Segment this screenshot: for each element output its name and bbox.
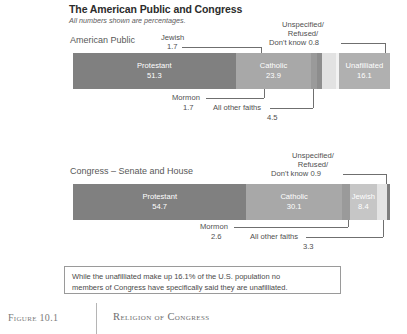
bar-segment-congress-unspecified-refused-don-t-know[interactable]	[387, 184, 390, 220]
leader-line-other-faiths-congress-v	[383, 220, 384, 237]
annotation-unspecified-line1-public: Unspecified/	[248, 20, 358, 29]
annotation-jewish-label-public: Jewish	[161, 33, 184, 42]
annotation-other-faiths-label-congress: All other faiths	[250, 232, 298, 241]
series-label-american-public: American Public	[70, 35, 135, 45]
annotation-unspecified-line1-congress: Unspecified/	[258, 151, 368, 160]
bar-segment-value: 16.1	[357, 71, 372, 81]
leader-line-unspecified-public-h	[341, 43, 385, 44]
annotation-mormon-label-congress: Mormon	[200, 222, 228, 231]
leader-line-unspecified-congress-h	[343, 174, 386, 175]
annotation-unspecified-line2-public: Refused/	[248, 29, 358, 38]
callout-line-2: members of Congress have specifically sa…	[72, 282, 334, 293]
leader-line-other-faiths-public-h	[270, 108, 313, 109]
annotation-mormon-value-congress: 2.6	[211, 232, 222, 241]
figure-number: Figure 10.1	[8, 312, 58, 323]
figure-caption-divider	[96, 303, 97, 334]
chart-subtitle: All numbers shown are percentages.	[69, 16, 186, 25]
annotation-other-faiths-label-public: All other faiths	[213, 103, 261, 112]
annotation-unspecified-line3-congress: Don't know 0.9	[271, 169, 321, 178]
bar-segment-value: 54.7	[152, 202, 167, 212]
bar-segment-congress-mormon[interactable]	[342, 184, 350, 220]
annotation-unspecified-line3-public: Don't know 0.8	[269, 38, 319, 47]
annotation-unspecified-line2-congress: Refused/	[258, 160, 368, 169]
bar-segment-value: 51.3	[147, 71, 162, 81]
figure-page: The American Public and Congress All num…	[0, 0, 407, 334]
bar-segment-congress-protestant[interactable]: Protestant54.7	[73, 184, 246, 220]
leader-line-jewish-public-h	[182, 47, 261, 48]
leader-line-other-faiths-public-v	[313, 89, 314, 108]
bar-segment-value: 23.9	[266, 71, 281, 81]
bar-segment-label: Jewish	[352, 192, 375, 202]
leader-line-mormon-congress-v	[348, 220, 349, 227]
figure-caption: Religion of Congress	[113, 311, 209, 322]
bar-segment-label: Protestant	[142, 192, 177, 202]
leader-line-other-faiths-congress-h	[306, 237, 383, 238]
series-label-congress: Congress – Senate and House	[70, 166, 193, 176]
bar-segment-label: Protestant	[137, 61, 172, 71]
bar-segment-label: Catholic	[280, 192, 307, 202]
bar-segment-congress-catholic[interactable]: Catholic30.1	[246, 184, 341, 220]
bar-segment-value: 8.4	[358, 202, 369, 212]
stacked-bar-american-public: Protestant51.3Catholic23.9Unafilliated16…	[73, 53, 390, 89]
annotation-other-faiths-value-public: 4.5	[267, 113, 278, 122]
annotation-mormon-value-public: 1.7	[183, 103, 194, 112]
bar-segment-public-all-other-faiths[interactable]	[322, 53, 336, 89]
bar-segment-label: Catholic	[260, 61, 287, 71]
chart-title: The American Public and Congress	[69, 3, 242, 15]
bar-segment-value: 30.1	[287, 202, 302, 212]
leader-line-mormon-public-h	[206, 98, 264, 99]
leader-line-mormon-congress-h	[234, 227, 348, 228]
bar-segment-public-unafilliated[interactable]: Unafilliated16.1	[339, 53, 390, 89]
annotation-jewish-value-public: 1.7	[167, 42, 178, 51]
leader-line-mormon-public-v	[264, 89, 265, 98]
annotation-mormon-label-public: Mormon	[172, 93, 200, 102]
bar-segment-public-protestant[interactable]: Protestant51.3	[73, 53, 236, 89]
bar-segment-congress-all-other-faiths[interactable]	[377, 184, 387, 220]
annotation-other-faiths-value-congress: 3.3	[303, 242, 314, 251]
stacked-bar-congress: Protestant54.7Catholic30.1Jewish8.4	[73, 184, 390, 220]
callout-box: While the unafilliated make up 16.1% of …	[64, 266, 341, 294]
callout-line-1: While the unafilliated make up 16.1% of …	[72, 271, 334, 282]
bar-segment-public-catholic[interactable]: Catholic23.9	[236, 53, 312, 89]
bar-segment-congress-jewish[interactable]: Jewish8.4	[350, 184, 377, 220]
bar-segment-label: Unafilliated	[346, 61, 384, 71]
